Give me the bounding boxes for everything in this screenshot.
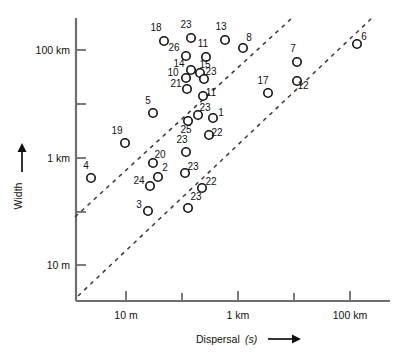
- data-point[interactable]: 17: [257, 75, 272, 97]
- lower-bound-line: [78, 18, 372, 296]
- y-tick-label-1km: 1 km: [47, 152, 70, 164]
- x-axis-title-group: Dispersal (s): [196, 333, 301, 345]
- data-point-label: 22: [205, 176, 217, 187]
- x-axis-arrow-icon: [268, 335, 301, 344]
- plot-canvas: 100 km 1 km 10 m 10 m 1 km 100 km 182313…: [0, 0, 399, 364]
- data-point[interactable]: 13: [215, 21, 229, 44]
- data-point-label: 23: [199, 102, 211, 113]
- data-point-marker[interactable]: [149, 159, 157, 167]
- data-point[interactable]: 23: [180, 19, 195, 42]
- data-point[interactable]: 3: [136, 199, 152, 215]
- data-point-label: 10: [167, 67, 179, 78]
- data-point[interactable]: 23: [176, 134, 190, 156]
- data-point-marker[interactable]: [121, 139, 129, 147]
- data-point-label: 19: [111, 125, 123, 136]
- data-point-label: 26: [168, 42, 180, 53]
- data-point-marker[interactable]: [87, 174, 95, 182]
- data-point-marker[interactable]: [184, 204, 192, 212]
- data-point[interactable]: 23: [184, 191, 202, 212]
- data-point[interactable]: 22: [198, 176, 217, 192]
- data-point-marker[interactable]: [187, 66, 195, 74]
- data-point-marker[interactable]: [182, 148, 190, 156]
- data-point-label: 7: [290, 43, 296, 54]
- data-point-marker[interactable]: [154, 173, 162, 181]
- data-point-marker[interactable]: [160, 37, 168, 45]
- x-tick-label-10m: 10 m: [114, 309, 138, 321]
- data-point-marker[interactable]: [146, 182, 154, 190]
- data-point[interactable]: 8: [239, 32, 252, 52]
- data-points-group: 1823138261114151023211176121752325122192…: [83, 19, 367, 215]
- data-point-label: 20: [154, 149, 166, 160]
- data-point-marker[interactable]: [209, 114, 217, 122]
- data-point[interactable]: 4: [83, 160, 95, 182]
- data-point[interactable]: 18: [150, 22, 168, 45]
- y-axis-arrow-icon: [18, 143, 27, 172]
- data-point-marker[interactable]: [293, 58, 301, 66]
- y-tick-labels: 100 km 1 km 10 m: [36, 44, 71, 271]
- y-axis-ticks: [76, 50, 86, 265]
- data-point-label: 24: [133, 175, 145, 186]
- data-point-marker[interactable]: [221, 36, 229, 44]
- data-point[interactable]: 7: [290, 43, 301, 66]
- upper-bound-line: [75, 18, 292, 217]
- data-point-label: 22: [211, 127, 223, 138]
- data-point[interactable]: 11: [198, 38, 210, 61]
- data-point[interactable]: 1: [209, 107, 224, 122]
- data-point[interactable]: 22: [205, 127, 223, 139]
- data-point-label: 8: [246, 32, 252, 43]
- scatter-plot-figure: 100 km 1 km 10 m 10 m 1 km 100 km 182313…: [0, 0, 399, 364]
- data-point-label: 4: [83, 160, 89, 171]
- data-point-label: 23: [205, 66, 217, 77]
- data-point-label: 21: [170, 78, 182, 89]
- data-point-label: 23: [180, 19, 192, 30]
- data-point-label: 11: [206, 87, 217, 98]
- y-tick-label-100km: 100 km: [36, 44, 71, 56]
- data-point-label: 5: [145, 95, 151, 106]
- data-point-label: 11: [198, 38, 209, 49]
- data-point-label: 3: [136, 199, 142, 210]
- data-point[interactable]: 11: [199, 87, 217, 100]
- y-axis-title: Width: [12, 182, 24, 209]
- data-point-label: 6: [361, 31, 367, 42]
- trend-lines-group: [75, 18, 372, 296]
- x-axis-title: Dispersal: [196, 333, 240, 345]
- data-point[interactable]: 24: [133, 175, 154, 190]
- data-point-marker[interactable]: [353, 40, 361, 48]
- data-point-label: 23: [190, 191, 202, 202]
- data-point-label: 23: [187, 161, 199, 172]
- x-axis-ticks: [126, 291, 350, 301]
- data-point-marker[interactable]: [264, 89, 272, 97]
- y-tick-label-10m: 10 m: [47, 259, 71, 271]
- data-point-label: 1: [218, 107, 224, 118]
- x-tick-label-1km: 1 km: [227, 309, 250, 321]
- data-point-label: 17: [257, 75, 269, 86]
- x-tick-labels: 10 m 1 km 100 km: [114, 309, 367, 321]
- data-point[interactable]: 5: [145, 95, 157, 117]
- data-point-marker[interactable]: [144, 207, 152, 215]
- data-point-label: 18: [150, 22, 162, 33]
- data-point[interactable]: 23: [181, 161, 199, 177]
- data-point-marker[interactable]: [187, 34, 195, 42]
- data-point-marker[interactable]: [183, 85, 191, 93]
- data-point-label: 23: [176, 134, 188, 145]
- data-point[interactable]: 6: [353, 31, 367, 48]
- data-point-label: 12: [297, 80, 309, 91]
- x-axis-title-variable: (s): [245, 333, 257, 345]
- y-axis-title-group: Width: [12, 143, 27, 209]
- data-point-marker[interactable]: [182, 74, 190, 82]
- data-point[interactable]: 19: [111, 125, 129, 147]
- axes-group: [76, 18, 390, 301]
- data-point-label: 2: [162, 162, 168, 173]
- data-point-label: 13: [215, 21, 227, 32]
- x-tick-label-100km: 100 km: [333, 309, 368, 321]
- data-point-marker[interactable]: [239, 44, 247, 52]
- data-point-marker[interactable]: [149, 109, 157, 117]
